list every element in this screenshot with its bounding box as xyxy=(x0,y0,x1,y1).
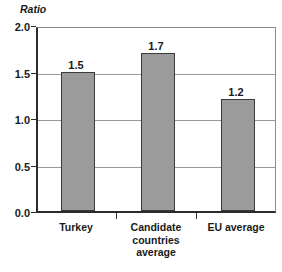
bar xyxy=(61,72,95,212)
bar xyxy=(221,99,255,211)
plot-area xyxy=(36,27,276,213)
y-tick-label: 2.0 xyxy=(0,21,30,33)
y-tick-label: 0.0 xyxy=(0,207,30,219)
bar-value-label: 1.7 xyxy=(131,40,181,52)
bar-value-label: 1.5 xyxy=(51,59,101,71)
x-category-label-line: Turkey xyxy=(36,221,116,234)
bar-chart-figure: Ratio 0.00.51.01.52.0 1.51.71.2 TurkeyCa… xyxy=(0,0,282,272)
x-category-label-line: Candidate xyxy=(116,221,196,234)
x-category-label: EU average xyxy=(196,221,276,234)
x-tick-mark xyxy=(116,213,117,219)
y-tick-label: 1.0 xyxy=(0,114,30,126)
x-category-label: Turkey xyxy=(36,221,116,234)
bar-value-label: 1.2 xyxy=(211,86,261,98)
x-category-label-line: average xyxy=(116,246,196,259)
x-tick-mark xyxy=(196,213,197,219)
x-category-label: Candidatecountriesaverage xyxy=(116,221,196,259)
y-tick-label: 1.5 xyxy=(0,68,30,80)
x-category-label-line: EU average xyxy=(196,221,276,234)
y-tick-label: 0.5 xyxy=(0,161,30,173)
bar xyxy=(141,53,175,211)
x-category-label-line: countries xyxy=(116,234,196,247)
y-axis-title: Ratio xyxy=(20,3,46,15)
